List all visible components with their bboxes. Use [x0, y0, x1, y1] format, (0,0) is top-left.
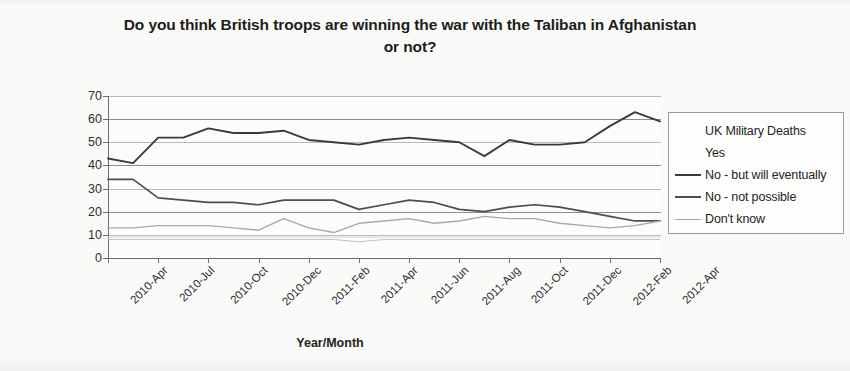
- x-axis-tick-mark: [158, 258, 159, 263]
- x-axis-title: Year/Month: [0, 336, 660, 350]
- x-axis-tick-mark: [610, 258, 611, 263]
- legend-swatch-line-icon: [675, 196, 701, 198]
- legend-item[interactable]: UK Military Deaths: [675, 120, 839, 142]
- x-axis-tick-mark: [108, 258, 109, 263]
- x-axis-tick-mark: [309, 258, 310, 263]
- x-axis-tick-mark: [560, 258, 561, 263]
- x-axis-tick-mark: [509, 258, 510, 263]
- legend-item-label: Yes: [705, 146, 725, 160]
- x-axis-tick-mark: [409, 258, 410, 263]
- legend-item-label: UK Military Deaths: [705, 124, 806, 138]
- x-axis-tick-mark: [459, 258, 460, 263]
- series-line-no-not-possible: [108, 179, 660, 221]
- series-line-uk-military-deaths: [108, 239, 660, 241]
- legend-item-label: No - not possible: [705, 190, 796, 204]
- legend-item[interactable]: Yes: [675, 142, 839, 164]
- series-line-no-but-will-eventually: [108, 112, 660, 163]
- legend-item[interactable]: Don't know: [675, 208, 839, 230]
- legend-item[interactable]: No - not possible: [675, 186, 839, 208]
- x-axis-tick-mark: [359, 258, 360, 263]
- chart-figure: Do you think British troops are winning …: [0, 0, 850, 371]
- legend-item-label: No - but will eventually: [705, 168, 826, 182]
- legend-swatch-line-icon: [675, 174, 701, 176]
- chart-legend: UK Military DeathsYesNo - but will event…: [668, 112, 844, 234]
- legend-item[interactable]: No - but will eventually: [675, 164, 839, 186]
- series-line-don-t-know: [108, 216, 660, 232]
- x-axis-tick-mark: [259, 258, 260, 263]
- x-axis-tick-mark: [660, 258, 661, 263]
- legend-item-label: Don't know: [705, 212, 765, 226]
- x-axis-tick-mark: [208, 258, 209, 263]
- legend-swatch-line-icon: [675, 219, 701, 220]
